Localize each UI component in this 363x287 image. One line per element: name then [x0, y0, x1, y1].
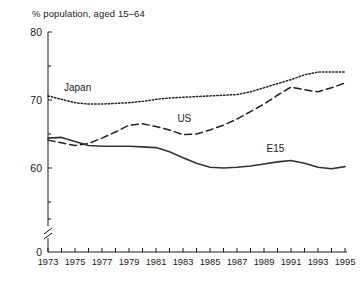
- x-axis-label: 1989: [251, 257, 277, 267]
- y-axis-label: 80: [16, 26, 42, 38]
- x-axis-label: 1995: [332, 257, 358, 267]
- x-axis-label: 1979: [116, 257, 142, 267]
- x-axis-label: 1981: [143, 257, 169, 267]
- series-label-us: US: [176, 113, 192, 124]
- y-axis-label: 60: [16, 162, 42, 174]
- x-axis-label: 1987: [224, 257, 250, 267]
- x-axis-label: 1973: [35, 257, 61, 267]
- x-axis-label: 1985: [197, 257, 223, 267]
- series-label-japan: Japan: [63, 82, 92, 93]
- y-axis-break-mark: [44, 228, 52, 234]
- series-line-japan: [48, 72, 345, 104]
- series-label-e15: E15: [266, 143, 286, 154]
- y-axis-label: 70: [16, 94, 42, 106]
- x-axis-label: 1993: [305, 257, 331, 267]
- series-line-us: [48, 83, 345, 146]
- x-axis-label: 1991: [278, 257, 304, 267]
- x-axis-label: 1983: [170, 257, 196, 267]
- chart-plot-area: [0, 0, 363, 287]
- x-axis-label: 1977: [89, 257, 115, 267]
- x-axis-label: 1975: [62, 257, 88, 267]
- chart-container: % population, aged 15–64 807060019731975…: [0, 0, 363, 287]
